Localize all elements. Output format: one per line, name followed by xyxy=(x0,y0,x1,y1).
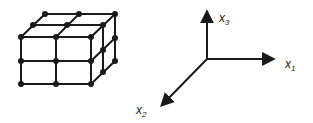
diagram-canvas: x3 x1 x2 xyxy=(0,0,313,123)
label-x2: x2 xyxy=(135,103,147,119)
axis-labels: x3 x1 x2 xyxy=(135,11,295,119)
axis-x2 xyxy=(162,59,207,105)
label-x3: x3 xyxy=(218,11,230,27)
label-x1: x1 xyxy=(284,57,295,73)
coordinate-axes xyxy=(162,12,273,105)
lattice-nodes xyxy=(18,11,118,87)
